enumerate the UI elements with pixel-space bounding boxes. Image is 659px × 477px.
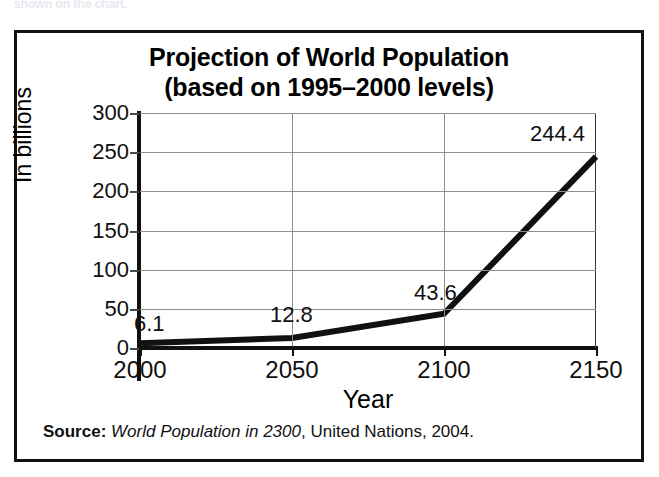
chart-title-line-1: Projection of World Population [149, 43, 509, 71]
y-tick-label: 100 [69, 259, 129, 281]
y-tick-label: 50 [69, 298, 129, 320]
x-axis-title: Year [138, 385, 598, 414]
source-title: World Population in 2300 [111, 422, 301, 441]
x-tick-mark [292, 346, 294, 356]
y-tick-label: 300 [69, 102, 129, 124]
plot-area [140, 113, 596, 348]
gridline-horizontal [140, 309, 596, 310]
data-point-label: 43.6 [414, 282, 457, 304]
gridline-horizontal [140, 152, 596, 153]
y-tick-mark [130, 191, 139, 193]
x-tick-label: 2150 [551, 357, 641, 383]
x-tick-label: 2050 [247, 357, 337, 383]
y-tick-label: 150 [69, 220, 129, 242]
y-tick-mark [130, 348, 139, 350]
source-rest: , United Nations, 2004. [301, 422, 474, 441]
y-tick-mark [130, 152, 139, 154]
chart-figure: Projection of World Population (based on… [14, 30, 644, 462]
y-tick-mark [130, 231, 139, 233]
source-label: Source: [43, 422, 106, 441]
x-tick-mark [444, 346, 446, 356]
gridline-horizontal [140, 191, 596, 192]
y-tick-mark [130, 113, 139, 115]
y-tick-label: 200 [69, 180, 129, 202]
cropped-text-sliver: shown on the chart. [14, 0, 254, 9]
source-note: Source: World Population in 2300, United… [43, 422, 474, 442]
data-point-label: 244.4 [530, 123, 585, 145]
data-point-label: 12.8 [270, 304, 313, 326]
gridline-horizontal [140, 270, 596, 271]
gridline-horizontal [140, 231, 596, 232]
x-tick-mark [140, 346, 142, 356]
y-tick-mark [130, 270, 139, 272]
y-axis-tick-labels: 050100150200250300 [63, 33, 129, 459]
y-axis-title: In billions [10, 87, 37, 183]
x-tick-label: 2000 [95, 357, 185, 383]
x-tick-mark [596, 346, 598, 356]
y-tick-label: 250 [69, 141, 129, 163]
gridline-horizontal [140, 113, 596, 114]
x-tick-label: 2100 [399, 357, 489, 383]
data-point-label: 6.1 [134, 313, 165, 335]
gridline-vertical [444, 113, 445, 348]
